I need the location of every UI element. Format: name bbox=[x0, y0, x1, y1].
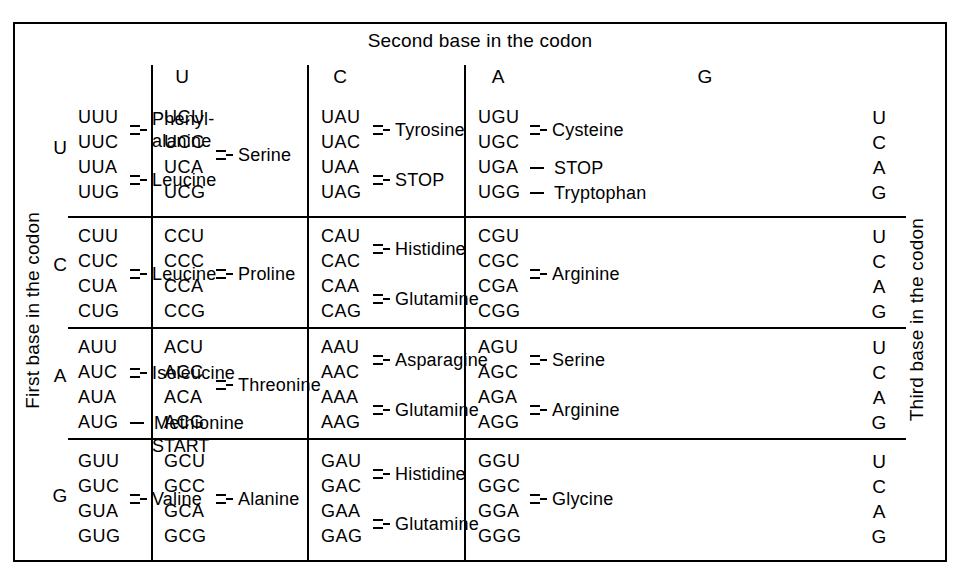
first-base-letter: A bbox=[48, 365, 72, 387]
codon: GCA bbox=[164, 499, 207, 524]
codon: GCG bbox=[164, 524, 207, 549]
codon-cell: CCUCCCCCACCGProline bbox=[164, 220, 324, 331]
amino-acid-groups: Serine bbox=[216, 105, 291, 205]
amino-acid-name: Serine bbox=[238, 144, 291, 166]
codon-cell: UGUUGCUGAUGGCysteineSTOPTryptophan bbox=[478, 101, 678, 212]
third-base-column: UCAG bbox=[868, 105, 890, 205]
codon: AAC bbox=[321, 360, 361, 385]
codon: GAA bbox=[321, 499, 363, 524]
first-base-letter: U bbox=[48, 137, 72, 159]
third-base-letter: U bbox=[868, 335, 890, 360]
codon-list: UCUUCCUCAUCG bbox=[164, 105, 206, 205]
amino-acid-name: Threonine bbox=[238, 374, 321, 396]
amino-acid-groups: AsparagineGlutamine bbox=[373, 335, 488, 435]
amino-acid-group: Serine bbox=[530, 335, 620, 385]
codon: UAU bbox=[321, 105, 362, 130]
codon: CUC bbox=[78, 249, 120, 274]
amino-acid-name: Glutamine bbox=[395, 513, 479, 535]
codon: CCG bbox=[164, 299, 206, 324]
third-base-letter: A bbox=[868, 385, 890, 410]
amino-acid-group: Threonine bbox=[216, 335, 321, 435]
codon: GUU bbox=[78, 449, 121, 474]
codon-grid: UUUUUUCUUAUUGPhenyl- alanineLeucineUCUUC… bbox=[68, 97, 906, 560]
codon-cell: CAUCACCAACAGHistidineGlutamine bbox=[321, 220, 481, 331]
codon: CGU bbox=[478, 224, 521, 249]
codon-list: UAUUACUAAUAG bbox=[321, 105, 362, 205]
amino-acid-groups: HistidineGlutamine bbox=[373, 224, 479, 324]
codon: UAA bbox=[321, 155, 362, 180]
amino-acid-groups: Alanine bbox=[216, 449, 299, 549]
codon: UCA bbox=[164, 155, 206, 180]
third-base-letter: G bbox=[868, 410, 890, 435]
codon-list: UUUUUCUUAUUG bbox=[78, 105, 120, 205]
third-base-letter: C bbox=[868, 249, 890, 274]
codon: AAA bbox=[321, 385, 361, 410]
codon: UCG bbox=[164, 180, 206, 205]
amino-acid-name: Serine bbox=[552, 349, 605, 371]
amino-acid-name: Glutamine bbox=[395, 399, 479, 421]
third-base-letter: A bbox=[868, 155, 890, 180]
amino-acid-name: STOP bbox=[554, 157, 603, 179]
codon-row-u: UUUUUUCUUAUUGPhenyl- alanineLeucineUCUUC… bbox=[68, 101, 906, 212]
codon: UCC bbox=[164, 130, 206, 155]
amino-acid-group: Glutamine bbox=[373, 499, 479, 549]
amino-acid-group: STOP bbox=[373, 155, 465, 205]
codon: AAG bbox=[321, 410, 361, 435]
third-base-letter: G bbox=[868, 299, 890, 324]
codon: CAC bbox=[321, 249, 362, 274]
amino-acid-groups: Glycine bbox=[530, 449, 613, 549]
amino-acid-groups: Threonine bbox=[216, 335, 321, 435]
codon-list: ACUACCACAACG bbox=[164, 335, 205, 435]
codon: UGG bbox=[478, 180, 521, 205]
amino-acid-name: Arginine bbox=[552, 399, 620, 421]
amino-acid-group: Alanine bbox=[216, 449, 299, 549]
codon: AGG bbox=[478, 410, 520, 435]
codon: GAG bbox=[321, 524, 363, 549]
codon-list: UGUUGCUGAUGG bbox=[478, 105, 521, 205]
third-base-letter: C bbox=[868, 474, 890, 499]
amino-acid-name: Histidine bbox=[395, 238, 466, 260]
codon: UUU bbox=[78, 105, 120, 130]
codon-row-c: CCUUCUCCUACUGLeucineCCUCCCCCACCGProlineC… bbox=[68, 220, 906, 331]
codon: CGA bbox=[478, 274, 521, 299]
amino-acid-name: Tyrosine bbox=[395, 119, 465, 141]
amino-acid-groups: SerineArginine bbox=[530, 335, 620, 435]
amino-acid-group: Arginine bbox=[530, 224, 620, 324]
amino-acid-name: Asparagine bbox=[395, 349, 488, 371]
codon: CGG bbox=[478, 299, 521, 324]
amino-acid-name: Cysteine bbox=[552, 119, 624, 141]
amino-acid-name: Histidine bbox=[395, 463, 466, 485]
first-base-axis-title: First base in the codon bbox=[22, 212, 44, 409]
amino-acid-name: Glutamine bbox=[395, 288, 479, 310]
codon-cell: GGUGGCGGAGGGGlycine bbox=[478, 445, 678, 556]
third-base-column: UCAG bbox=[868, 335, 890, 435]
codon: AUG bbox=[78, 410, 119, 435]
third-base-letter: U bbox=[868, 224, 890, 249]
row-divider-1 bbox=[68, 216, 906, 218]
codon-list: AAUAACAAAAAG bbox=[321, 335, 361, 435]
codon-list: CUUCUCCUACUG bbox=[78, 224, 120, 324]
codon: GGG bbox=[478, 524, 522, 549]
codon: ACU bbox=[164, 335, 205, 360]
third-base-letter: C bbox=[868, 360, 890, 385]
codon-list: GCUGCCGCAGCG bbox=[164, 449, 207, 549]
third-base-letter: U bbox=[868, 105, 890, 130]
third-base-letter: U bbox=[868, 449, 890, 474]
codon: UUG bbox=[78, 180, 120, 205]
amino-acid-group: Glutamine bbox=[373, 385, 488, 435]
codon-list: CGUCGCCGACGG bbox=[478, 224, 521, 324]
codon: UAC bbox=[321, 130, 362, 155]
codon-list: CAUCACCAACAG bbox=[321, 224, 362, 324]
amino-acid-name: Tryptophan bbox=[554, 182, 646, 204]
third-base-letter: G bbox=[868, 524, 890, 549]
codon: ACC bbox=[164, 360, 205, 385]
codon-cell: GAUGACGAAGAGHistidineGlutamine bbox=[321, 445, 481, 556]
third-base-axis-title: Third base in the codon bbox=[906, 218, 928, 421]
codon-cell: AAUAACAAAAAGAsparagineGlutamine bbox=[321, 331, 481, 442]
amino-acid-groups: HistidineGlutamine bbox=[373, 449, 479, 549]
codon-cell: UCUUCCUCAUCGSerine bbox=[164, 101, 324, 212]
amino-acid-groups: Proline bbox=[216, 224, 295, 324]
amino-acid-groups: Arginine bbox=[530, 224, 620, 324]
codon: CUU bbox=[78, 224, 120, 249]
dash-icon bbox=[530, 167, 544, 169]
